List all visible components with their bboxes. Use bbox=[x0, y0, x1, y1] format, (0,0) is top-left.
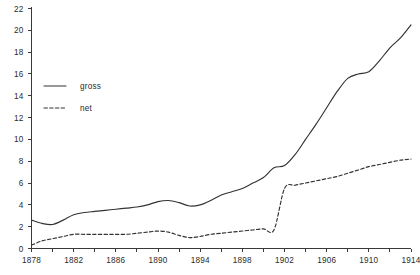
y-tick-label: 18 bbox=[14, 48, 24, 57]
y-tick-label: 0 bbox=[19, 245, 24, 254]
x-tick-label: 1890 bbox=[148, 256, 167, 265]
y-tick-label: 22 bbox=[14, 5, 24, 14]
x-tick-label: 1914 bbox=[401, 256, 420, 265]
x-tick-label: 1886 bbox=[106, 256, 125, 265]
y-tick-label: 4 bbox=[19, 201, 24, 210]
y-tick-label: 20 bbox=[14, 26, 24, 35]
x-tick-label: 1906 bbox=[317, 256, 336, 265]
x-tick-label: 1910 bbox=[359, 256, 378, 265]
line-chart: 0246810121416182022 18781882188618901894… bbox=[0, 0, 420, 275]
chart-background bbox=[0, 0, 420, 275]
y-tick-label: 12 bbox=[14, 114, 24, 123]
y-tick-label: 2 bbox=[19, 223, 24, 232]
x-tick-label: 1902 bbox=[275, 256, 294, 265]
y-tick-label: 6 bbox=[19, 179, 24, 188]
legend-label-gross: gross bbox=[80, 82, 101, 91]
x-tick-label: 1882 bbox=[64, 256, 83, 265]
x-tick-label: 1894 bbox=[191, 256, 210, 265]
x-tick-label: 1898 bbox=[233, 256, 252, 265]
y-tick-label: 8 bbox=[19, 157, 24, 166]
y-tick-label: 10 bbox=[14, 135, 24, 144]
y-tick-label: 16 bbox=[14, 70, 24, 79]
x-tick-label: 1878 bbox=[22, 256, 41, 265]
y-tick-label: 14 bbox=[14, 92, 24, 101]
legend-label-net: net bbox=[80, 104, 93, 113]
